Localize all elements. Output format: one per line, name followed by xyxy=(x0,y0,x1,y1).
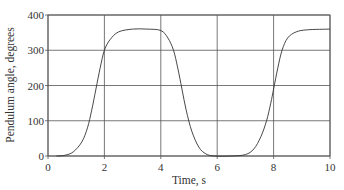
x-tick-label: 4 xyxy=(158,161,164,173)
y-axis-ticks: 0100200300400 xyxy=(28,9,45,162)
x-tick-label: 2 xyxy=(102,161,108,173)
chart-canvas: 0246810 0100200300400 Time, s Pendulum a… xyxy=(0,0,344,190)
x-axis-label: Time, s xyxy=(172,174,207,187)
y-tick-label: 100 xyxy=(28,115,45,127)
x-axis-ticks: 0246810 xyxy=(45,161,336,173)
pendulum-angle-line xyxy=(56,29,330,156)
x-tick-label: 6 xyxy=(214,161,220,173)
y-tick-label: 300 xyxy=(28,44,45,56)
pendulum-angle-chart: 0246810 0100200300400 Time, s Pendulum a… xyxy=(0,0,344,190)
y-tick-label: 0 xyxy=(39,150,45,162)
grid-lines xyxy=(45,15,330,159)
x-tick-label: 0 xyxy=(45,161,51,173)
x-tick-label: 10 xyxy=(325,161,337,173)
y-tick-label: 200 xyxy=(28,80,45,92)
x-tick-label: 8 xyxy=(271,161,277,173)
y-axis-label: Pendulum angle, degrees xyxy=(4,27,17,143)
y-tick-label: 400 xyxy=(28,9,45,21)
